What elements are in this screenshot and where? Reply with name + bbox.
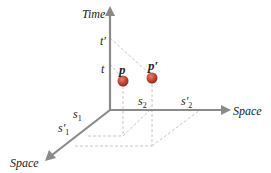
projection-lines (75, 38, 200, 146)
t-prime-to-p-prime-line (110, 38, 152, 76)
axes (45, 6, 231, 161)
s1-label: s1 (73, 108, 82, 123)
point-p-prime-label: p′ (148, 59, 158, 72)
point-p-label: p (119, 63, 126, 76)
s2-prime-diagonal-line (152, 110, 200, 146)
t-prime-label: t′ (100, 35, 106, 47)
point-p-prime-sphere (147, 73, 158, 84)
spacetime-diagram: Time Space Space t′ t p p′ s2 s′2 s1 s′1 (0, 0, 271, 173)
space-diagonal-axis-label: Space (10, 157, 39, 169)
space-diagonal-arrowhead-icon (45, 150, 56, 161)
point-p-sphere (118, 76, 129, 87)
time-axis-arrowhead-icon (105, 6, 115, 16)
time-axis-label: Time (82, 8, 105, 20)
s2-label: s2 (138, 95, 147, 110)
diagram-graphics (0, 0, 271, 173)
space-horizontal-arrowhead-icon (221, 105, 231, 115)
t-label: t (101, 63, 104, 75)
s1-prime-label: s′1 (58, 122, 69, 137)
s2-diagonal-line (123, 110, 150, 136)
s2-prime-label: s′2 (181, 95, 192, 110)
space-horizontal-axis-label: Space (233, 105, 262, 117)
